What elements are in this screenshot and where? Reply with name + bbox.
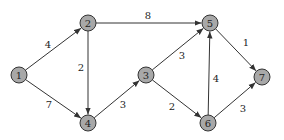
node-label: 7 bbox=[259, 72, 265, 83]
edge-weight-label: 3 bbox=[240, 103, 246, 114]
edge-weight-label: 3 bbox=[179, 50, 185, 61]
edge-weight-label: 8 bbox=[145, 10, 151, 21]
node-3: 3 bbox=[138, 67, 154, 83]
node-1: 1 bbox=[11, 67, 27, 83]
edge-weight-label: 4 bbox=[213, 73, 219, 84]
node-label: 5 bbox=[207, 18, 213, 29]
edge-weight-label: 2 bbox=[169, 101, 175, 112]
node-7: 7 bbox=[254, 69, 270, 85]
edge-6-to-7 bbox=[214, 83, 255, 118]
edge-weights-layer: 4782332413 bbox=[45, 10, 249, 114]
edge-6-to-5 bbox=[208, 31, 210, 115]
graph-diagram: 4782332413 1234567 bbox=[0, 0, 284, 140]
node-2: 2 bbox=[80, 15, 96, 31]
node-6: 6 bbox=[200, 115, 216, 131]
edge-weight-label: 1 bbox=[243, 37, 249, 48]
node-4: 4 bbox=[80, 115, 96, 131]
node-label: 2 bbox=[85, 18, 91, 29]
node-label: 1 bbox=[16, 70, 22, 81]
edge-weight-label: 7 bbox=[46, 99, 52, 110]
edge-4-to-3 bbox=[94, 80, 139, 117]
edge-weight-label: 3 bbox=[120, 99, 126, 110]
node-label: 4 bbox=[85, 118, 91, 129]
nodes-layer: 1234567 bbox=[11, 15, 270, 131]
edge-weight-label: 4 bbox=[45, 39, 51, 50]
node-label: 6 bbox=[205, 118, 211, 129]
edge-3-to-6 bbox=[152, 80, 201, 118]
edge-weight-label: 2 bbox=[78, 62, 84, 73]
node-label: 3 bbox=[143, 70, 149, 81]
edge-5-to-7 bbox=[216, 29, 257, 71]
node-5: 5 bbox=[202, 15, 218, 31]
edge-1-to-4 bbox=[26, 80, 81, 119]
edge-3-to-5 bbox=[152, 28, 203, 70]
edge-1-to-2 bbox=[25, 28, 81, 70]
